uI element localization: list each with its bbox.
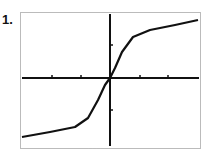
- graph: [0, 0, 203, 150]
